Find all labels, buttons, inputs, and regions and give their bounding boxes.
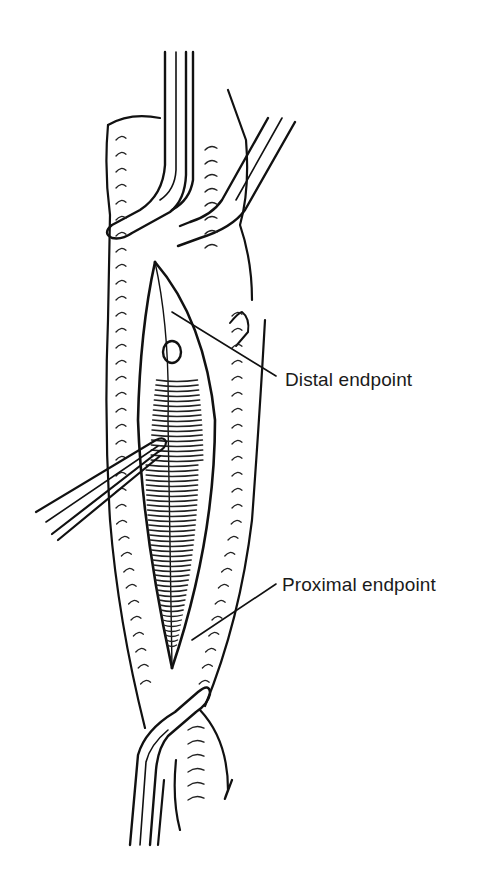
surgical-illustration: Distal endpoint Proximal endpoint bbox=[0, 0, 492, 870]
distal-leader-line bbox=[172, 312, 276, 376]
upper-vessel-loop bbox=[107, 52, 193, 238]
wall-hatching bbox=[116, 136, 242, 800]
distal-endpoint-label: Distal endpoint bbox=[285, 369, 412, 391]
lower-vessel-loop bbox=[130, 687, 232, 845]
intima-hatching bbox=[146, 380, 203, 647]
proximal-leader-line bbox=[192, 584, 276, 640]
branch-vessel-loop bbox=[178, 118, 295, 246]
artery-drawing bbox=[0, 0, 492, 870]
proximal-endpoint-label: Proximal endpoint bbox=[282, 574, 436, 596]
